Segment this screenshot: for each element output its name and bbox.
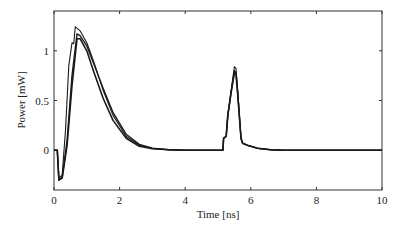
series-line-2: [54, 34, 382, 180]
plot-frame: [54, 11, 382, 190]
x-tick-label: 6: [248, 194, 254, 206]
x-tick-label: 2: [117, 194, 123, 206]
x-tick-label: 4: [182, 194, 188, 206]
y-tick-label: 0: [44, 144, 50, 156]
y-axis-label: Power [mW]: [15, 71, 27, 128]
x-tick-label: 8: [314, 194, 320, 206]
chart: 024681000.51 Time [ns] Power [mW]: [0, 0, 403, 233]
x-tick-label: 10: [377, 194, 389, 206]
series-line-1: [54, 27, 382, 178]
x-axis-label: Time [ns]: [197, 208, 240, 220]
axis-ticks: 024681000.51: [35, 11, 388, 206]
x-tick-label: 0: [51, 194, 57, 206]
y-tick-label: 1: [44, 45, 50, 57]
series-group: [54, 27, 382, 180]
series-line-3: [54, 39, 382, 180]
plot-area: [54, 11, 382, 190]
y-tick-label: 0.5: [35, 95, 49, 107]
